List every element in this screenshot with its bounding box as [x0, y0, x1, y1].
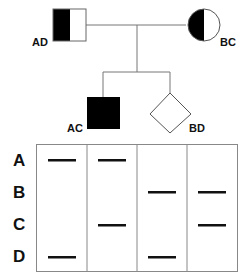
- row-label-d: D: [13, 248, 25, 265]
- band-d: [48, 256, 76, 259]
- band-c: [98, 224, 126, 227]
- label-ad: AD: [32, 37, 48, 48]
- band-b: [198, 191, 226, 194]
- band-c: [198, 224, 226, 227]
- band-a: [98, 159, 126, 162]
- row-label-a: A: [13, 152, 25, 169]
- label-ac: AC: [67, 123, 83, 134]
- label-bc: BC: [220, 37, 236, 48]
- band-b: [148, 191, 176, 194]
- individual-bd-symbol: [150, 93, 191, 133]
- individual-ad-symbol: [53, 9, 86, 41]
- row-label-c: C: [13, 216, 25, 233]
- individual-ac-symbol: [87, 97, 120, 129]
- label-bd: BD: [189, 123, 205, 134]
- individual-bc-symbol: [188, 9, 220, 41]
- gel-box: [37, 145, 238, 272]
- band-a: [48, 159, 76, 162]
- band-d: [148, 256, 176, 259]
- row-label-b: B: [13, 184, 25, 201]
